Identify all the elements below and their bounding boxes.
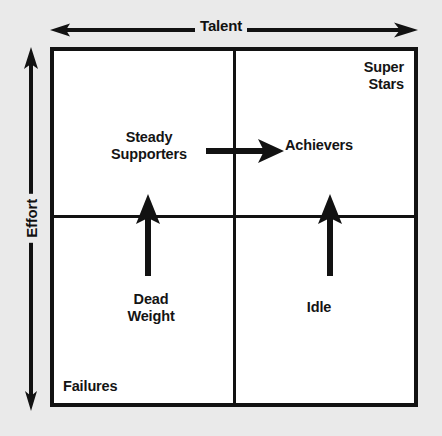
corner-label-super-stars: Super Stars: [364, 59, 404, 93]
effort-axis-arrow: [22, 47, 40, 411]
matrix-horizontal-divider: [54, 215, 414, 218]
movement-arrow-up-right-icon: [318, 194, 342, 276]
quadrant-label-steady-supporters: Steady Supporters: [74, 129, 224, 163]
corner-label-failures: Failures: [63, 378, 117, 395]
movement-arrow-right-icon: [206, 139, 284, 163]
quadrant-label-dead-weight: Dead Weight: [76, 291, 226, 325]
talent-effort-matrix-diagram: Talent Effort Steady Supporters Achiever…: [0, 0, 442, 436]
matrix-frame: Steady Supporters Achievers Dead Weight …: [50, 47, 418, 407]
movement-arrow-up-left-icon: [136, 194, 160, 276]
talent-axis-arrow: [50, 22, 418, 38]
matrix-vertical-divider: [233, 51, 236, 403]
quadrant-label-idle: Idle: [244, 299, 394, 316]
